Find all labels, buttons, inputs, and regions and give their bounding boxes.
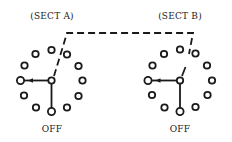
section-a-label: (SECT A): [30, 11, 74, 21]
contact-a-8: [21, 92, 27, 98]
arrow-b: [156, 78, 161, 82]
contact-b-11: [161, 51, 167, 57]
contact-b-2: [204, 62, 210, 68]
contact-b-1: [192, 50, 198, 56]
contact-b-4: [204, 92, 210, 98]
section-b-off-label: OFF: [170, 124, 190, 134]
contact-a-1: [64, 51, 70, 57]
linkage-b-stub: [182, 67, 186, 76]
contact-b-9-selected: [144, 77, 151, 84]
contact-b-6-off: [176, 108, 183, 115]
contact-a-9-selected: [17, 77, 24, 84]
contact-b-3: [209, 77, 215, 83]
contact-b-8: [149, 92, 155, 98]
hub-a: [48, 77, 54, 83]
contact-a-12: [48, 47, 54, 53]
gang-linkage: [54, 33, 193, 76]
contact-b-12: [177, 46, 183, 52]
contact-a-7: [33, 104, 39, 110]
contact-b-7: [161, 104, 167, 110]
linkage-dashed-line: [54, 33, 193, 76]
section-a-switch: [17, 47, 86, 115]
contact-b-10: [149, 62, 155, 68]
section-b-switch: [144, 46, 215, 115]
hub-b: [177, 77, 183, 83]
section-a-off-label: OFF: [42, 124, 62, 134]
contact-a-11: [32, 51, 38, 57]
contact-b-5: [192, 104, 198, 110]
contact-a-2: [75, 63, 81, 69]
contact-a-10: [21, 62, 27, 68]
rotary-switch-diagram: [0, 0, 232, 142]
contact-a-3: [79, 77, 85, 83]
contact-a-5: [64, 104, 70, 110]
arrow-a: [28, 78, 33, 82]
contact-a-4: [75, 93, 81, 99]
contact-a-6-off: [48, 108, 55, 115]
section-b-label: (SECT B): [158, 11, 202, 21]
